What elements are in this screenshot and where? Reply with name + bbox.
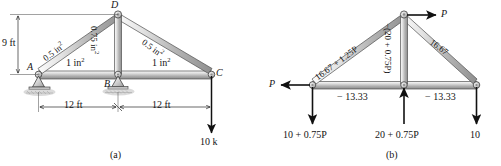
dimension-label-12ft-right: 12 ft xyxy=(152,100,171,110)
caption-a: (a) xyxy=(110,150,121,160)
member-bottom-chord-a xyxy=(38,71,212,79)
area-exponent-bc: 2 xyxy=(167,56,170,63)
force-label-b-bottom-left: − 13.33 xyxy=(337,92,368,102)
reaction-label-b-left: 10 + 0.75P xyxy=(283,130,327,140)
dimension-label-9ft: 9 ft xyxy=(2,38,16,48)
force-label-b-vertical: −(20 + 0.75P) xyxy=(383,23,392,73)
area-exponent-ab: 2 xyxy=(81,56,84,63)
area-label-db: 0.75 in2 xyxy=(89,26,100,54)
truss-figure: D A B C 9 ft 12 ft 12 ft 10 k 0.5 in2 0.… xyxy=(0,0,501,166)
caption-b: (b) xyxy=(386,150,398,160)
load-label-10k: 10 k xyxy=(200,137,218,147)
load-label-b-right: 10 xyxy=(470,130,480,140)
member-bottom-chord-b xyxy=(312,82,477,90)
area-exponent-db: 2 xyxy=(94,51,101,54)
joint-label-c: C xyxy=(216,68,223,78)
load-label-b-apex-p: P xyxy=(441,9,447,19)
figure-canvas xyxy=(0,0,501,166)
area-label-ab: 1 in2 xyxy=(66,57,85,68)
joint-label-d: D xyxy=(111,0,118,10)
area-label-bc: 1 in2 xyxy=(152,57,171,68)
reaction-label-b-mid: 20 + 0.75P xyxy=(375,130,419,140)
diagram-a-geometry xyxy=(10,11,215,133)
joint-label-a: A xyxy=(27,62,33,72)
load-label-b-left-p: P xyxy=(269,79,275,89)
force-label-b-bottom-right: − 13.33 xyxy=(425,92,456,102)
diagram-b-geometry xyxy=(281,11,480,124)
dimension-label-12ft-left: 12 ft xyxy=(64,100,83,110)
joint-label-b: B xyxy=(104,79,110,89)
member-b-vertical xyxy=(401,15,408,84)
member-db xyxy=(115,15,122,74)
